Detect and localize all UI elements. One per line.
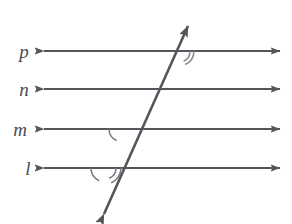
line-label-p: p	[17, 41, 29, 62]
angle-arc-m-lower-left	[109, 129, 117, 141]
line-group-l: l	[25, 158, 280, 179]
line-label-m: m	[13, 119, 27, 140]
line-label-n: n	[19, 79, 29, 100]
line-group-p: p	[17, 41, 280, 62]
transversal-line	[104, 26, 188, 214]
line-label-l: l	[25, 158, 30, 179]
angle-arc-p-lower-right	[184, 51, 194, 65]
geometry-figure: p n m l	[0, 0, 292, 224]
parallel-lines-transversal-diagram: p n m l	[0, 0, 292, 224]
angle-arc-l-lower-left	[91, 168, 99, 181]
line-group-n: n	[19, 79, 280, 100]
line-group-m: m	[13, 119, 280, 140]
